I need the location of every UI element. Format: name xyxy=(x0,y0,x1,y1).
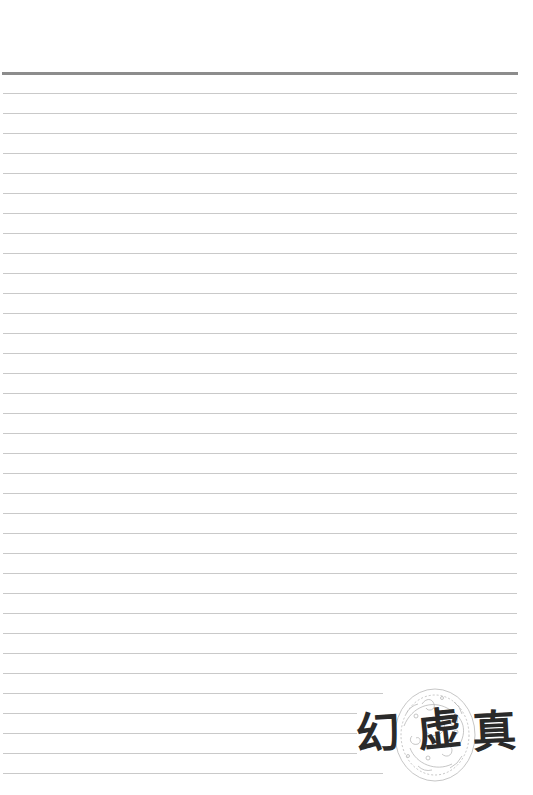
ruled-line xyxy=(3,733,357,734)
ruled-line xyxy=(3,473,517,474)
ruled-line xyxy=(3,253,517,254)
ruled-line xyxy=(3,273,517,274)
ruled-line xyxy=(3,93,517,94)
calligraphy-char-2: 虚 xyxy=(411,701,468,758)
ruled-line xyxy=(3,633,517,634)
ruled-line xyxy=(3,293,517,294)
ruled-line xyxy=(3,313,517,314)
calligraphy-stamp: 幻 虚 真 xyxy=(340,680,533,792)
ruled-line xyxy=(3,553,517,554)
calligraphy-char-3: 真 xyxy=(467,705,522,760)
ruled-line xyxy=(3,333,517,334)
ruled-line xyxy=(3,573,517,574)
ruled-line xyxy=(3,353,517,354)
ruled-line xyxy=(3,613,517,614)
ruled-line xyxy=(3,373,517,374)
ruled-line xyxy=(3,693,383,694)
notebook-page: 幻 虚 真 xyxy=(0,0,533,795)
ruled-line xyxy=(3,193,517,194)
ruled-line xyxy=(3,533,517,534)
ruled-line xyxy=(3,713,357,714)
ruled-line xyxy=(3,773,383,774)
ruled-line xyxy=(3,233,517,234)
calligraphy-char-1: 幻 xyxy=(350,706,406,762)
ruled-line xyxy=(3,113,517,114)
ruled-line xyxy=(3,213,517,214)
ruled-line xyxy=(3,753,357,754)
ruled-line xyxy=(3,673,517,674)
ruled-line xyxy=(3,653,517,654)
ruled-line xyxy=(3,413,517,414)
ruled-line xyxy=(3,393,517,394)
ruled-line xyxy=(3,493,517,494)
ruled-line xyxy=(3,453,517,454)
ruled-line xyxy=(3,593,517,594)
ruled-line xyxy=(3,173,517,174)
header-rule xyxy=(2,72,518,75)
ruled-line xyxy=(3,513,517,514)
ruled-line xyxy=(3,133,517,134)
ruled-line xyxy=(3,433,517,434)
calligraphy-text: 幻 虚 真 xyxy=(352,706,520,758)
ruled-line xyxy=(3,153,517,154)
